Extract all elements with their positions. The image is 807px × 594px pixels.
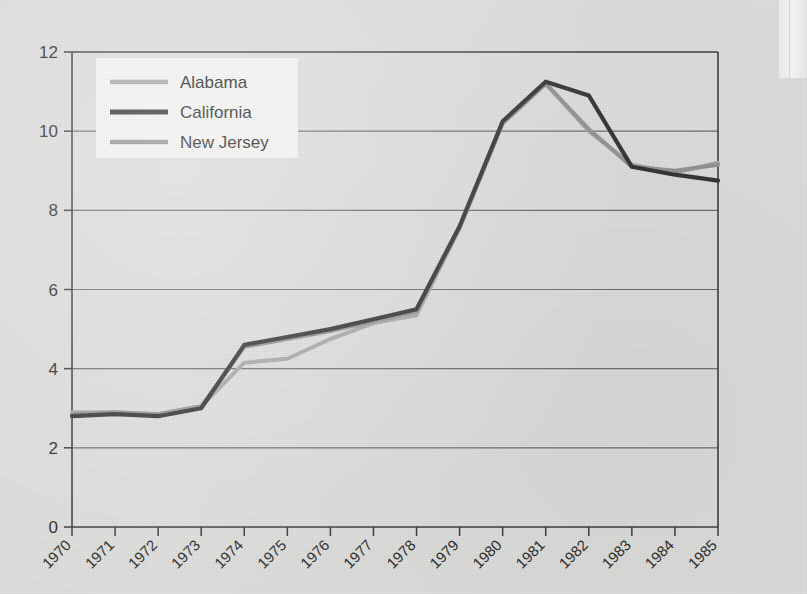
x-tick-label: 1972 <box>125 536 161 572</box>
y-tick-label: 6 <box>49 281 58 300</box>
legend-label-new-jersey: New Jersey <box>180 133 269 152</box>
y-tick-label: 12 <box>39 43 58 62</box>
x-tick-label: 1978 <box>383 536 419 572</box>
x-tick-label: 1970 <box>39 536 75 572</box>
x-tick-label: 1982 <box>555 536 591 572</box>
y-tick-label: 2 <box>49 439 58 458</box>
x-axis-ticks <box>72 527 718 536</box>
legend-label-california: California <box>180 103 252 122</box>
legend-label-alabama: Alabama <box>180 73 248 92</box>
gridlines <box>72 131 718 448</box>
x-tick-label: 1977 <box>340 536 376 572</box>
x-tick-label: 1984 <box>641 536 677 572</box>
x-tick-label: 1974 <box>211 536 247 572</box>
x-tick-label: 1985 <box>685 536 721 572</box>
x-tick-label: 1980 <box>469 536 505 572</box>
x-tick-label: 1975 <box>254 536 290 572</box>
y-axis-ticks <box>64 52 72 527</box>
x-axis-tick-labels: 1970197119721973197419751976197719781979… <box>39 536 721 572</box>
y-tick-label: 8 <box>49 201 58 220</box>
y-tick-label: 4 <box>49 360 58 379</box>
x-tick-label: 1976 <box>297 536 333 572</box>
x-tick-label: 1973 <box>168 536 204 572</box>
y-tick-label: 0 <box>49 518 58 537</box>
line-chart: 024681012 197019711972197319741975197619… <box>0 0 807 594</box>
x-tick-label: 1981 <box>512 536 548 572</box>
x-tick-label: 1971 <box>82 536 118 572</box>
y-axis-tick-labels: 024681012 <box>39 43 58 537</box>
x-tick-label: 1983 <box>598 536 634 572</box>
chart-legend: AlabamaCaliforniaNew Jersey <box>96 58 298 158</box>
y-tick-label: 10 <box>39 122 58 141</box>
chart-canvas: 024681012 197019711972197319741975197619… <box>0 0 807 594</box>
x-tick-label: 1979 <box>426 536 462 572</box>
